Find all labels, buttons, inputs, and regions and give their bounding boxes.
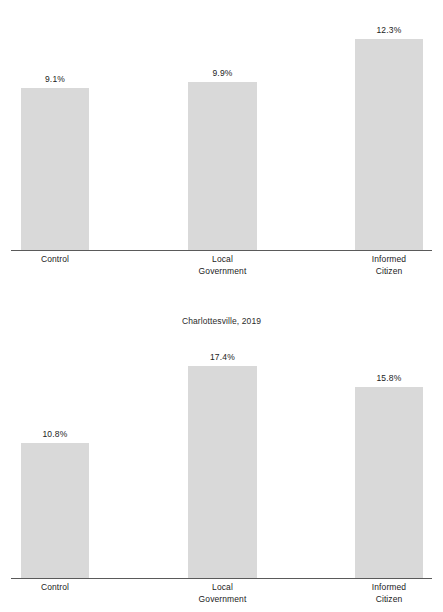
x-tick-label-line: Local bbox=[188, 582, 257, 594]
bar-value-label: 15.8% bbox=[355, 373, 423, 383]
x-tick-label-line: Citizen bbox=[355, 266, 423, 278]
x-tick-label-local-government: Local Government bbox=[188, 254, 257, 277]
bar-local-government bbox=[188, 82, 257, 250]
x-tick-label-line: Government bbox=[188, 266, 257, 278]
x-tick-label-control: Control bbox=[21, 582, 89, 594]
bar-control bbox=[21, 443, 89, 578]
x-tick-label-line: Local bbox=[188, 254, 257, 266]
x-tick-label-informed-citizen: Informed Citizen bbox=[355, 254, 423, 277]
bar-local-government bbox=[188, 366, 257, 578]
bar-value-label: 10.8% bbox=[21, 429, 89, 439]
x-axis-line bbox=[11, 578, 432, 579]
x-tick-label-line: Citizen bbox=[355, 594, 423, 606]
bar-informed-citizen bbox=[355, 387, 423, 578]
x-tick-label-informed-citizen: Informed Citizen bbox=[355, 582, 423, 605]
bar-informed-citizen bbox=[355, 39, 423, 250]
bar-value-label: 9.1% bbox=[21, 74, 89, 84]
bar-value-label: 9.9% bbox=[188, 68, 257, 78]
x-tick-label-line: Informed bbox=[355, 582, 423, 594]
x-tick-label-line: Informed bbox=[355, 254, 423, 266]
x-axis-line bbox=[11, 250, 432, 251]
chart-title-bottom: Charlottesville, 2019 bbox=[0, 316, 443, 326]
x-tick-label-line: Control bbox=[21, 254, 89, 266]
x-tick-label-local-government: Local Government bbox=[188, 582, 257, 605]
bar-control bbox=[21, 88, 89, 250]
x-tick-label-line: Control bbox=[21, 582, 89, 594]
bar-value-label: 17.4% bbox=[188, 352, 257, 362]
x-tick-label-line: Government bbox=[188, 594, 257, 606]
bar-value-label: 12.3% bbox=[355, 25, 423, 35]
bar-chart-bottom: Charlottesville, 2019 10.8% 17.4% 15.8% … bbox=[0, 300, 443, 612]
x-tick-label-control: Control bbox=[21, 254, 89, 266]
bar-chart-top: 9.1% 9.9% 12.3% Control Local Government… bbox=[0, 0, 443, 300]
